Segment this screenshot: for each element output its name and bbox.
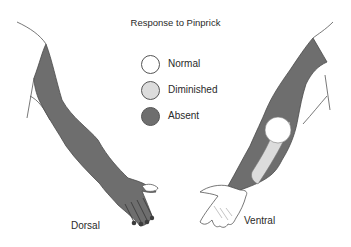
absent-swatch-icon bbox=[141, 107, 160, 126]
ventral-arm bbox=[200, 22, 333, 227]
normal-swatch-icon bbox=[141, 55, 160, 74]
legend-label-absent: Absent bbox=[168, 110, 199, 121]
legend-label-diminished: Diminished bbox=[168, 84, 217, 95]
arms-diagram bbox=[0, 0, 351, 247]
diagram-title: Response to Pinprick bbox=[0, 17, 351, 28]
dorsal-arm bbox=[17, 22, 158, 226]
ventral-label: Ventral bbox=[244, 215, 275, 226]
dorsal-label: Dorsal bbox=[71, 220, 100, 231]
diminished-swatch-icon bbox=[141, 81, 160, 100]
legend-label-normal: Normal bbox=[168, 58, 200, 69]
